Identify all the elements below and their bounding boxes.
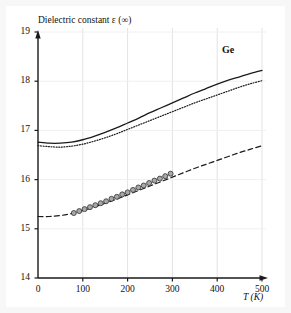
data-point-marker (152, 178, 157, 183)
data-point-marker (157, 176, 162, 181)
data-point-marker (125, 190, 130, 195)
data-point-marker (163, 174, 168, 179)
x-tick-label: 0 (25, 285, 51, 295)
x-tick-label: 300 (159, 285, 185, 295)
figure-container: Dielectric constant ε (∞) Ge T (K) 14151… (0, 0, 291, 313)
y-tick-label: 17 (12, 125, 30, 135)
chart-plot-area (0, 0, 291, 313)
data-point-marker (93, 203, 98, 208)
data-point-marker (98, 201, 103, 206)
data-point-marker (141, 183, 146, 188)
series-annotation-ge: Ge (222, 45, 234, 55)
x-tick-label: 200 (115, 285, 141, 295)
data-point-marker (104, 199, 109, 204)
data-point-marker (109, 196, 114, 201)
y-tick-label: 14 (12, 273, 30, 283)
data-point-marker (147, 181, 152, 186)
y-tick-label: 18 (12, 76, 30, 86)
data-point-marker (130, 187, 135, 192)
data-point-marker (87, 205, 92, 210)
data-point-marker (82, 207, 87, 212)
x-tick-label: 500 (249, 285, 275, 295)
x-tick-label: 400 (204, 285, 230, 295)
data-point-marker (77, 209, 82, 214)
chart-title: Dielectric constant ε (∞) (38, 16, 131, 26)
data-point-marker (168, 171, 173, 176)
y-tick-label: 16 (12, 175, 30, 185)
x-tick-label: 100 (70, 285, 96, 295)
plot-background (6, 6, 285, 307)
y-tick-label: 19 (12, 27, 30, 37)
y-tick-label: 15 (12, 224, 30, 234)
data-point-marker (71, 211, 76, 216)
data-point-marker (120, 192, 125, 197)
data-point-marker (114, 194, 119, 199)
data-point-marker (136, 185, 141, 190)
